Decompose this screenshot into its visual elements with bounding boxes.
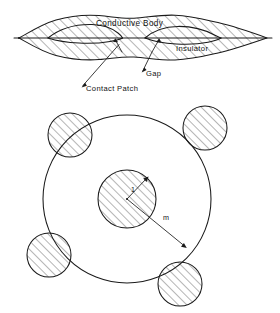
diagram-canvas: Conductive Body Insulator Gap Contact Pa… [0,0,280,313]
circle-center-point [126,198,128,200]
label-insulator: Insulator [176,44,208,53]
figure-root: Conductive Body Insulator Gap Contact Pa… [0,0,280,313]
label-outer-radius: m [163,213,169,222]
satellite-upper-left [48,113,92,157]
label-conductive-body: Conductive Body [96,19,164,28]
bottom-diagram-group: 1 m [27,106,227,306]
left-tip-node [18,37,20,39]
label-gap: Gap [146,69,161,78]
satellite-lower-right [158,262,202,306]
top-diagram-group: Conductive Body Insulator Gap Contact Pa… [10,8,278,93]
label-inner-radius: 1 [131,185,135,194]
label-contact-patch: Contact Patch [86,84,138,93]
